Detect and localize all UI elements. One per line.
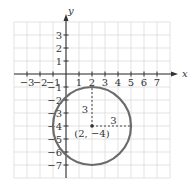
- vertical-radius-label: 3: [82, 104, 88, 115]
- center-label: (2, −4): [74, 128, 109, 139]
- y-tick-label: −4: [47, 121, 62, 132]
- horizontal-radius-label: 3: [110, 115, 116, 126]
- y-axis-label: y: [67, 5, 74, 16]
- x-axis-arrow-icon: [171, 72, 178, 77]
- x-axis-label: x: [182, 68, 188, 79]
- graph: xy −3−2−11234567321−1−2−3−4−5−6−7 33(2, …: [0, 0, 190, 191]
- x-tick-label: 1: [76, 77, 82, 88]
- x-tick-label: 7: [154, 77, 160, 88]
- x-tick-label: 4: [115, 77, 121, 88]
- y-tick-label: 3: [56, 30, 62, 41]
- y-tick-label: −1: [47, 82, 62, 93]
- x-tick-label: 3: [102, 77, 108, 88]
- x-tick-label: 5: [128, 77, 134, 88]
- y-tick-label: 1: [56, 56, 62, 67]
- x-tick-label: 6: [141, 77, 147, 88]
- y-tick-label: 2: [56, 43, 62, 54]
- y-tick-label: −7: [47, 160, 62, 171]
